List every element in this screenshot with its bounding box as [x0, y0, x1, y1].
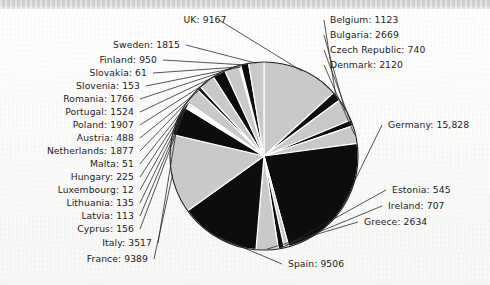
pie-label-poland: Poland: 1907	[73, 120, 134, 130]
pie-label-latvia: Latvia: 113	[81, 211, 134, 221]
pie-chart-figure	[0, 0, 490, 285]
pie-label-italy: Italy: 3517	[102, 238, 152, 248]
pie-slices	[170, 62, 358, 250]
pie-label-ireland: Ireland: 707	[388, 201, 445, 211]
pie-label-netherlands: Netherlands: 1877	[47, 146, 134, 156]
pie-label-slovenia: Slovenia: 153	[76, 81, 140, 91]
pie-label-hungary: Hungary: 225	[71, 172, 134, 182]
leader-line-france	[154, 174, 173, 259]
pie-label-uk: UK: 9167	[184, 15, 227, 25]
pie-label-germany: Germany: 15,828	[388, 120, 469, 130]
pie-label-sweden: Sweden: 1815	[113, 40, 180, 50]
pie-label-estonia: Estonia: 545	[392, 185, 451, 195]
pie-label-romania: Romania: 1766	[63, 94, 134, 104]
leader-line-sweden	[186, 45, 256, 63]
pie-label-greece: Greece: 2634	[364, 217, 427, 227]
pie-label-spain: Spain: 9506	[288, 259, 344, 269]
pie-label-czech-republic: Czech Republic: 740	[330, 45, 425, 55]
pie-label-lithuania: Lithuania: 135	[66, 198, 134, 208]
leader-line-finland	[163, 60, 245, 65]
pie-label-belgium: Belgium: 1123	[330, 15, 398, 25]
pie-label-bulgaria: Bulgaria: 2669	[330, 30, 399, 40]
pie-label-luxembourg: Luxembourg: 12	[58, 185, 134, 195]
pie-label-france: France: 9389	[87, 254, 148, 264]
pie-label-portugal: Portugal: 1524	[65, 107, 134, 117]
pie-label-finland: Finland: 950	[99, 55, 157, 65]
pie-label-austria: Austria: 488	[77, 133, 134, 143]
pie-label-cyprus: Cyprus: 156	[77, 224, 134, 234]
pie-label-slovakia: Slovakia: 61	[90, 68, 147, 78]
pie-label-malta: Malta: 51	[90, 159, 134, 169]
pie-label-denmark: Denmark: 2120	[330, 60, 403, 70]
